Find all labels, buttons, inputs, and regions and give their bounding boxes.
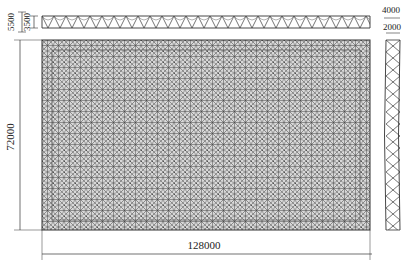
side-height-label: 4000 — [382, 5, 401, 15]
truss-drawing: 5500 3500 72000 128000 4000 2000 — [0, 0, 404, 264]
elevation-height-label: 5500 — [6, 13, 16, 32]
length-dimension: 128000 — [42, 230, 372, 260]
side-elevation-truss — [385, 40, 401, 230]
elevation-depth-label: 3500 — [22, 13, 32, 32]
width-dimension: 72000 — [4, 40, 42, 230]
length-label: 128000 — [188, 239, 222, 251]
side-depth-label: 2000 — [383, 22, 402, 32]
plan-grid — [42, 40, 370, 230]
top-elevation-truss — [42, 16, 370, 28]
width-label: 72000 — [4, 123, 16, 151]
elevation-dimension: 5500 3500 — [6, 12, 38, 32]
side-elevation-dimension: 4000 2000 — [382, 5, 402, 33]
